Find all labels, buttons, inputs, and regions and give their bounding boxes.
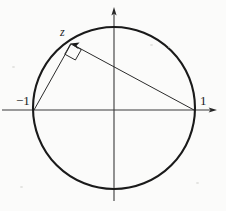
- unit-circle-diagram: [0, 0, 226, 211]
- axis-label-minus-one: −1: [16, 94, 29, 107]
- scan-speck: [168, 46, 170, 48]
- scan-speck: [20, 186, 23, 188]
- right-angle-marker-icon: [65, 44, 82, 60]
- point-label-z: z: [60, 26, 65, 38]
- scan-speck: [196, 182, 199, 184]
- figure-container: z −1 1: [0, 0, 226, 211]
- scan-speck: [12, 66, 15, 68]
- y-axis: [111, 7, 116, 201]
- scan-speck: [150, 44, 153, 46]
- axis-label-one: 1: [200, 94, 207, 107]
